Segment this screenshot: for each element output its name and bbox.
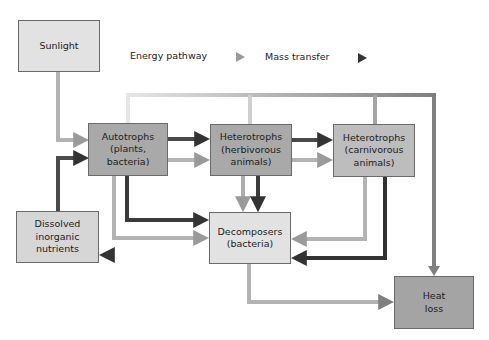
- edge-carn-decomp-energy: [298, 177, 365, 239]
- legend-mass-arrow-icon: [325, 53, 367, 63]
- edge-sunlight-autotrophs: [58, 71, 82, 140]
- node-herbivores: Heterotrophs (herbivorous animals): [210, 124, 292, 176]
- ecosystem-flow-diagram: Energy pathway Mass transfer Sunlight Au…: [0, 0, 489, 340]
- edge-carn-decomp-mass: [298, 177, 385, 258]
- edge-nutrients-autotrophs: [58, 158, 82, 211]
- node-decomposers: Decomposers (bacteria): [209, 212, 291, 264]
- node-carnivores: Heterotrophs (carnivorous animals): [333, 124, 415, 177]
- node-heat-loss: Heat loss: [394, 276, 474, 329]
- legend-mass-label: Mass transfer: [265, 51, 329, 62]
- node-sunlight: Sunlight: [18, 20, 100, 72]
- legend-energy-label: Energy pathway: [130, 50, 207, 61]
- node-autotrophs: Autotrophs (plants, bacteria): [88, 123, 168, 176]
- edge-decomp-heat-energy: [249, 264, 387, 302]
- node-nutrients: Dissolved inorganic nutrients: [16, 211, 99, 263]
- edge-auto-decomp-mass: [127, 176, 202, 220]
